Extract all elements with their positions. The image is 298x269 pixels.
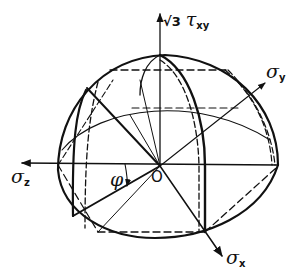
sigma-x-subscript: x: [239, 258, 245, 269]
sigma-z-axis: [22, 163, 278, 165]
sigma-x-symbol: σ: [226, 246, 239, 268]
tau-subscript: xy: [196, 20, 209, 31]
sigma-x-axis: [160, 166, 222, 256]
tau-symbol: τ: [186, 8, 197, 30]
phi-angle-label: φ: [110, 170, 123, 189]
sigma-x-axis-label: σx: [226, 248, 245, 269]
tau-xy-axis-label: √3 τxy: [163, 10, 209, 31]
phi-angle-arc: [125, 164, 127, 186]
sigma-y-axis-label: σy: [266, 62, 286, 83]
sigma-z-subscript: z: [24, 177, 30, 188]
yield-surface-diagram: [0, 0, 298, 269]
origin-label: O: [151, 170, 163, 185]
sigma-y-subscript: y: [279, 72, 286, 83]
sqrt3-prefix: √3: [163, 14, 181, 29]
base-ellipse-front: [58, 165, 278, 238]
sigma-y-symbol: σ: [266, 60, 279, 82]
sigma-z-symbol: σ: [11, 165, 24, 187]
sigma-z-axis-label: σz: [11, 167, 30, 188]
